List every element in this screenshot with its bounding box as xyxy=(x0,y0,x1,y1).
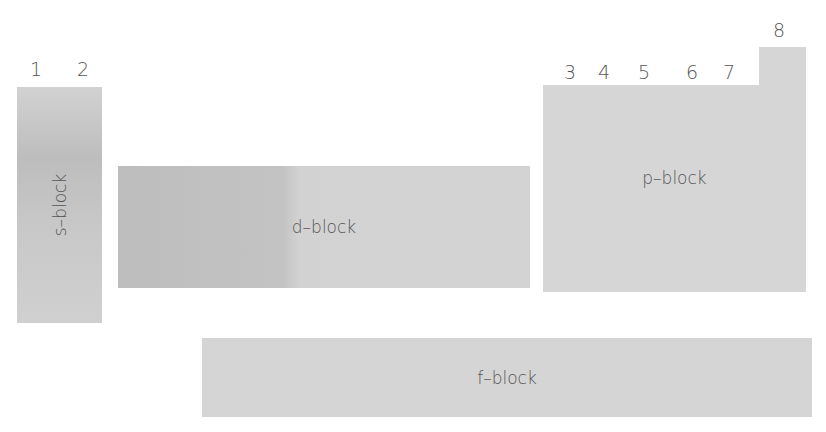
group-number-2: 2 xyxy=(77,60,89,79)
group-number-1: 1 xyxy=(30,60,42,79)
f-block-label: f–block xyxy=(477,368,537,388)
f-block: f–block xyxy=(202,338,812,417)
s-block: s–block xyxy=(17,87,102,323)
group-number-3: 3 xyxy=(564,63,576,82)
group-number-5: 5 xyxy=(638,63,650,82)
group-number-7: 7 xyxy=(723,63,735,82)
group-number-4: 4 xyxy=(598,63,610,82)
group-number-6: 6 xyxy=(686,63,698,82)
s-block-label: s–block xyxy=(50,174,70,236)
p-block-group-8-extension xyxy=(759,47,806,87)
d-block: d–block xyxy=(118,166,530,288)
p-block: p–block xyxy=(543,85,806,292)
group-number-8: 8 xyxy=(773,21,785,40)
d-block-label: d–block xyxy=(292,217,356,237)
p-block-label: p–block xyxy=(642,168,706,188)
